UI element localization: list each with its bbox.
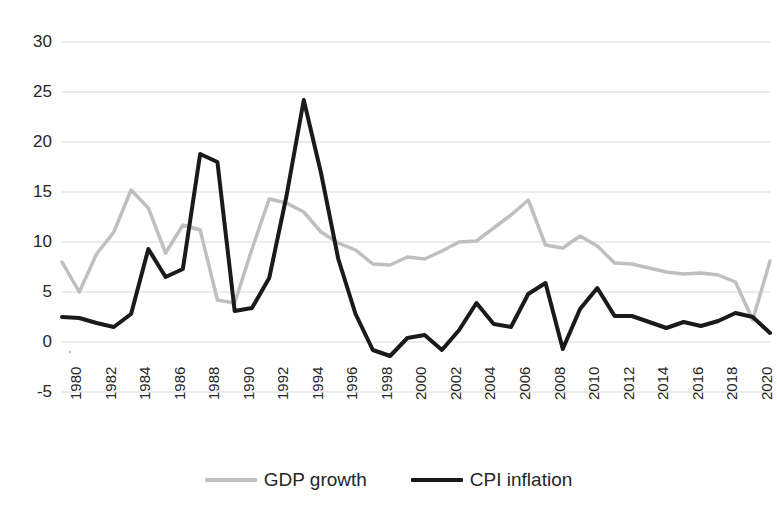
x-axis-tick-label: 1998 (379, 367, 394, 400)
legend-label: GDP growth (264, 470, 367, 489)
x-axis-tick-label: 2018 (724, 367, 739, 400)
x-axis-tick-label: 1996 (344, 367, 359, 400)
x-axis-tick-label: 2000 (413, 367, 428, 400)
series-line-cpi-inflation (62, 100, 770, 356)
plot-area (0, 0, 777, 520)
x-axis-tick-label: 2004 (482, 367, 497, 400)
x-axis-tick-label: 1984 (137, 367, 152, 400)
x-axis-tick-label: 2012 (621, 367, 636, 400)
x-axis-tick-label: 2014 (655, 367, 670, 400)
legend-swatch-line-icon (205, 478, 257, 482)
x-axis-tick-label: 1994 (310, 367, 325, 400)
x-axis-tick-label: 1980 (68, 367, 83, 400)
x-axis-tick-label: 1988 (206, 367, 221, 400)
x-axis-tick-label: 2002 (448, 367, 463, 400)
chart-legend: GDP growthCPI inflation (0, 470, 777, 489)
x-axis-tick-label: 2008 (552, 367, 567, 400)
legend-item[interactable]: CPI inflation (411, 470, 572, 489)
legend-swatch-line-icon (411, 478, 463, 482)
x-axis-tick-label: 1982 (103, 367, 118, 400)
series-line-gdp-growth (62, 190, 770, 320)
x-axis-tick-label: 2020 (759, 367, 774, 400)
legend-item[interactable]: GDP growth (205, 470, 367, 489)
x-axis-tick-label: 1990 (241, 367, 256, 400)
axis-marker-dot (69, 351, 72, 354)
x-axis-tick-label: 1986 (172, 367, 187, 400)
x-axis-tick-label: 2010 (586, 367, 601, 400)
legend-label: CPI inflation (470, 470, 572, 489)
x-axis-tick-label: 2016 (690, 367, 705, 400)
x-axis-tick-label: 2006 (517, 367, 532, 400)
chart-figure: 302520151050-5 1980198219841986198819901… (0, 0, 777, 520)
x-axis-tick-label: 1992 (275, 367, 290, 400)
